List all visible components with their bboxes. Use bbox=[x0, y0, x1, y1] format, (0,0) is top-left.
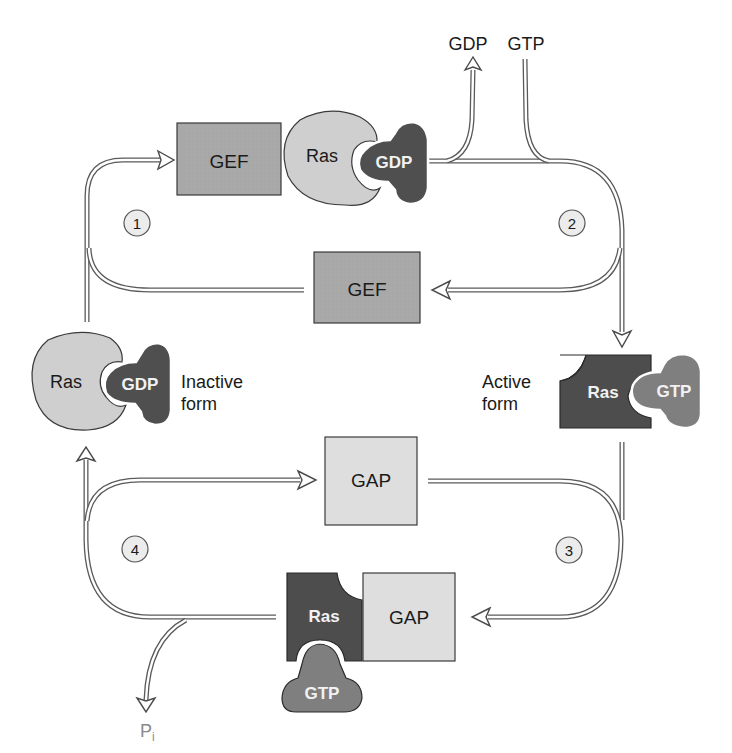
step-marker-3: 3 bbox=[556, 537, 582, 563]
svg-text:4: 4 bbox=[131, 541, 139, 558]
active-form-label-line2: form bbox=[482, 394, 518, 414]
inactive-form-label-line1: Inactive bbox=[181, 372, 243, 392]
gap-free-block: GAP bbox=[325, 437, 417, 525]
gtp-label: GTP bbox=[657, 382, 692, 401]
arrowhead-up-icon bbox=[465, 57, 481, 70]
arrow-step-2 bbox=[428, 57, 631, 347]
gef-free-block: GEF bbox=[314, 252, 420, 323]
ras-label: Ras bbox=[308, 607, 339, 626]
gef-free-label: GEF bbox=[347, 279, 386, 300]
arrow-step-3 bbox=[428, 442, 622, 626]
step-marker-2: 2 bbox=[559, 210, 585, 236]
ras-label: Ras bbox=[587, 383, 618, 402]
bound-gtp-label: GTP bbox=[507, 34, 544, 54]
gef-label: GEF bbox=[209, 151, 248, 172]
ras-gap-gtp-complex: Ras GAP GTP bbox=[282, 573, 455, 712]
ras-label: Ras bbox=[50, 372, 82, 392]
arrowhead-right-icon bbox=[158, 151, 174, 169]
svg-text:2: 2 bbox=[568, 215, 576, 232]
arrow-step-4 bbox=[77, 447, 316, 712]
inactive-form-label-line2: form bbox=[181, 394, 217, 414]
phosphate-label: Pi bbox=[140, 721, 155, 744]
gdp-label: GDP bbox=[122, 375, 159, 394]
active-form-label-line1: Active bbox=[482, 372, 531, 392]
arrowhead-left-icon bbox=[432, 281, 450, 299]
released-gdp-label: GDP bbox=[448, 34, 487, 54]
gtp-label: GTP bbox=[305, 684, 340, 703]
arrowhead-left-icon bbox=[472, 608, 490, 626]
arrowhead-down-icon bbox=[613, 331, 631, 347]
svg-text:3: 3 bbox=[565, 542, 573, 559]
gef-ras-gdp-complex: GEF Ras GDP bbox=[177, 111, 428, 205]
ras-label: Ras bbox=[306, 146, 338, 166]
gef-block: GEF bbox=[177, 123, 281, 195]
gap-free-label: GAP bbox=[351, 470, 391, 491]
step-marker-4: 4 bbox=[122, 536, 148, 562]
active-ras-gtp: Active form Ras GTP bbox=[482, 354, 701, 428]
ras-cycle-diagram: GEF Ras GDP GDP GTP GEF Ras GDP Inactive… bbox=[0, 0, 732, 753]
arrowhead-up-icon bbox=[77, 447, 95, 461]
svg-text:1: 1 bbox=[133, 215, 141, 232]
arrowhead-right-icon bbox=[298, 471, 316, 489]
gdp-label: GDP bbox=[376, 153, 413, 172]
gap-label: GAP bbox=[389, 607, 429, 628]
inactive-ras-gdp: Ras GDP Inactive form bbox=[32, 332, 243, 430]
step-marker-1: 1 bbox=[124, 210, 150, 236]
arrowhead-down-icon bbox=[137, 698, 155, 712]
